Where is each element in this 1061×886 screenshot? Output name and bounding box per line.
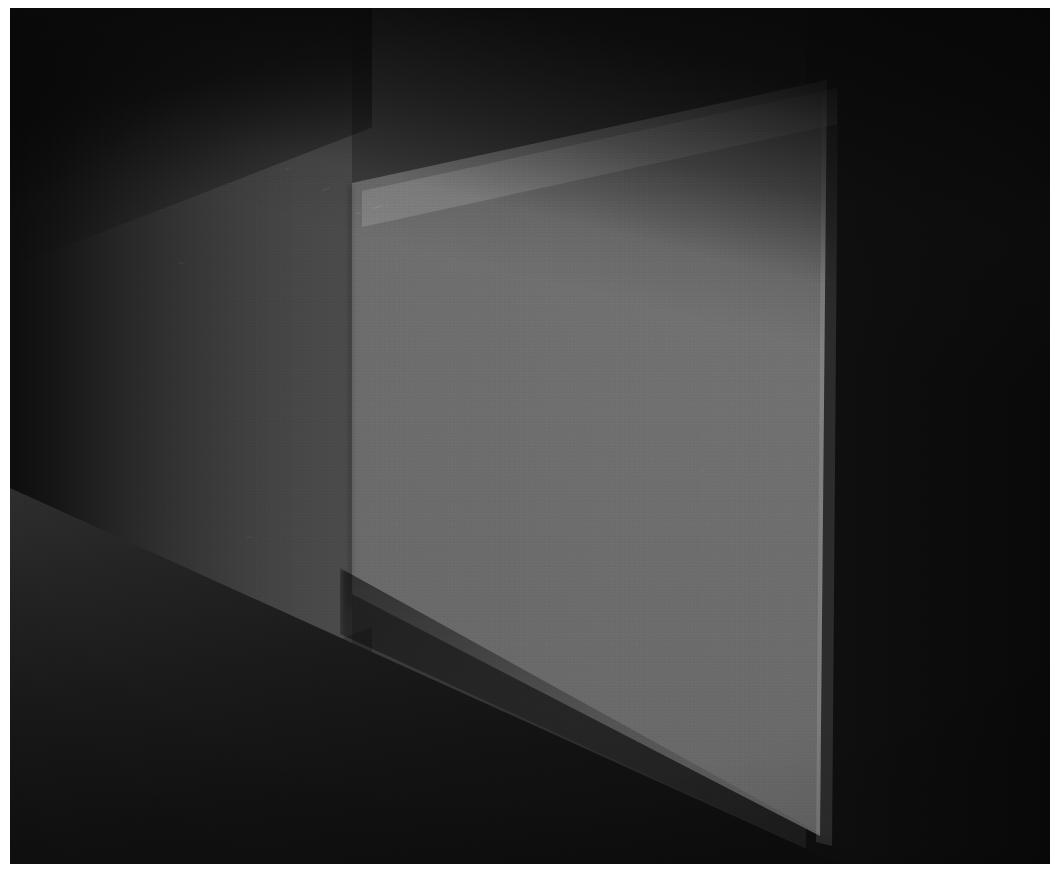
floor-plane xyxy=(10,488,840,864)
inner-corner-seam xyxy=(349,186,355,606)
photograph xyxy=(10,8,1050,864)
wall-scuff-mark xyxy=(700,470,704,472)
right-wall-plane xyxy=(806,8,1050,864)
wall-scuff-mark xyxy=(356,211,362,214)
wall-scuff-mark xyxy=(372,204,383,209)
screenshot-root xyxy=(0,0,1061,886)
